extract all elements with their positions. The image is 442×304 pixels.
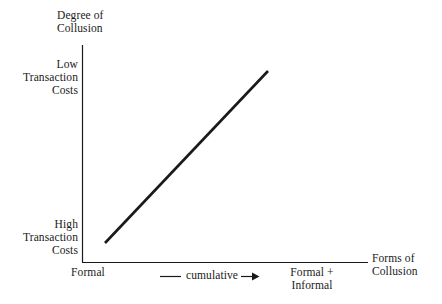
x-tick-formal-line1: Formal xyxy=(60,266,116,279)
x-tick-formal: Formal xyxy=(60,266,116,279)
x-axis-title-line1: Forms of xyxy=(372,252,442,265)
y-axis-title-line1: Degree of xyxy=(57,9,167,22)
x-tick-formal-informal-line1: Formal + xyxy=(272,266,352,279)
y-tick-low-transaction-costs: Low Transaction Costs xyxy=(0,58,78,98)
x-tick-formal-informal-line2: Informal xyxy=(272,279,352,292)
cumulative-annotation-label: cumulative xyxy=(183,269,241,282)
y-axis-title: Degree of Collusion xyxy=(57,9,167,35)
x-axis-title: Forms of Collusion xyxy=(372,252,442,278)
y-tick-low-line2: Transaction xyxy=(0,71,78,84)
y-tick-high-line1: High xyxy=(0,218,78,231)
collusion-diagram: Degree of Collusion Low Transaction Cost… xyxy=(0,0,442,304)
x-tick-formal-plus-informal: Formal + Informal xyxy=(272,266,352,292)
y-tick-high-line2: Transaction xyxy=(0,231,78,244)
y-tick-low-line3: Costs xyxy=(0,84,78,97)
y-tick-low-line1: Low xyxy=(0,58,78,71)
y-tick-high-line3: Costs xyxy=(0,244,78,257)
cumulative-arrowhead-icon xyxy=(252,273,260,281)
x-axis-title-line2: Collusion xyxy=(372,265,442,278)
collusion-trend-line xyxy=(105,71,268,243)
y-axis-title-line2: Collusion xyxy=(57,22,167,35)
y-tick-high-transaction-costs: High Transaction Costs xyxy=(0,218,78,258)
